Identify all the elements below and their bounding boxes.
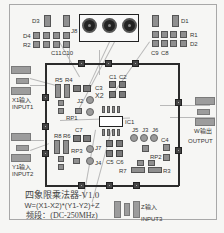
label-output: OUTPUT xyxy=(188,138,213,144)
d4-pad xyxy=(33,32,40,39)
label-d2: D2 xyxy=(190,41,198,47)
label-j2: J2 xyxy=(77,98,83,104)
j3-testpoint[interactable] xyxy=(140,134,148,142)
via xyxy=(175,147,182,154)
via xyxy=(78,182,85,189)
board-frequency: 频段：(DC-250MHz) xyxy=(0,211,127,220)
rp1-pad xyxy=(58,100,64,106)
d2-pad xyxy=(170,40,177,47)
label-j3: J3 xyxy=(142,127,148,133)
via xyxy=(133,182,140,189)
label-c10: C10 xyxy=(62,50,73,56)
label-c11: C11 xyxy=(51,50,62,56)
c1-pad xyxy=(109,91,116,98)
r2-pad xyxy=(33,41,40,48)
rp2-pad xyxy=(148,160,155,166)
ic1-pin xyxy=(117,106,120,113)
rp1-pad xyxy=(75,108,82,114)
jack-3[interactable] xyxy=(122,18,137,33)
r1-pad xyxy=(180,31,187,38)
ic1-pin xyxy=(107,106,110,113)
c9-pad xyxy=(152,40,159,47)
r7-pad xyxy=(131,167,145,173)
label-input1: INPUT1 xyxy=(12,104,33,110)
wire xyxy=(160,105,210,106)
trace xyxy=(45,63,179,65)
board-title: 四象限乘法器-V1.0 xyxy=(0,190,127,200)
label-c5: C5 xyxy=(106,159,114,165)
jack-2[interactable] xyxy=(102,18,117,33)
label-r3: R3 xyxy=(163,168,171,174)
label-c8: C8 xyxy=(161,50,169,56)
via xyxy=(132,60,139,67)
ic1-pin xyxy=(117,129,120,136)
label-c1: C1 xyxy=(109,74,117,80)
c2-pad xyxy=(119,81,126,88)
input3-pad[interactable] xyxy=(133,201,140,218)
c3-pad xyxy=(83,85,91,92)
label-c6: C6 xyxy=(116,159,124,165)
r6-pad xyxy=(63,140,69,154)
c2-pad xyxy=(119,91,126,98)
label-c9: C9 xyxy=(151,50,159,56)
j5-testpoint[interactable] xyxy=(130,134,138,142)
c11-pad xyxy=(53,41,60,48)
label-input3: INPUT3 xyxy=(141,216,162,222)
input1-pad[interactable] xyxy=(11,66,31,74)
j7-testpoint[interactable] xyxy=(86,145,94,153)
label-c2: C2 xyxy=(119,74,127,80)
rp3-pad xyxy=(58,164,64,170)
c3-pad xyxy=(73,85,81,92)
label-d1: D1 xyxy=(181,18,189,24)
c5-pad xyxy=(106,140,113,147)
output-pad[interactable] xyxy=(197,109,210,115)
jack-1[interactable] xyxy=(82,18,97,33)
r5-pad xyxy=(55,84,61,98)
via xyxy=(42,123,49,130)
label-r4: R4 xyxy=(65,77,73,83)
label-r1: R1 xyxy=(190,32,198,38)
label-r6: R6 xyxy=(63,133,71,139)
c6-pad xyxy=(116,150,123,157)
c4-pad xyxy=(163,144,170,151)
label-ic1: IC1 xyxy=(125,119,134,125)
label-input1-cn: X1输入 xyxy=(12,97,31,103)
d3-pad xyxy=(44,15,51,27)
input1-pad[interactable] xyxy=(11,87,31,95)
label-r5: R5 xyxy=(55,77,63,83)
label-j7: J7 xyxy=(95,145,101,151)
j1-testpoint[interactable] xyxy=(86,108,94,116)
label-j8: J8 xyxy=(71,28,77,34)
input1-pad[interactable] xyxy=(16,78,29,84)
input2-pad[interactable] xyxy=(11,154,31,162)
via xyxy=(175,99,182,106)
r1-pad xyxy=(170,31,177,38)
label-input2: INPUT2 xyxy=(12,171,33,177)
label-r8: R8 xyxy=(54,133,62,139)
d1-pad-2 xyxy=(172,15,179,27)
j6-testpoint[interactable] xyxy=(150,134,158,142)
label-r2: R2 xyxy=(23,42,31,48)
j4-testpoint[interactable] xyxy=(86,157,94,165)
label-r7: R7 xyxy=(119,168,127,174)
input2-pad[interactable] xyxy=(11,133,31,141)
label-c7: C7 xyxy=(75,127,83,133)
rp2-pad xyxy=(137,160,144,166)
r2-pad xyxy=(43,41,50,48)
c4-pad xyxy=(163,154,170,161)
c8-pad xyxy=(161,40,168,47)
label-input2-cn: Y1输入 xyxy=(12,164,31,170)
label-d4: D4 xyxy=(23,33,31,39)
input2-pad[interactable] xyxy=(16,145,29,151)
r3-pad xyxy=(148,167,162,173)
label-output-cn: W输出 xyxy=(194,128,212,134)
ic1-pin xyxy=(112,129,115,136)
c1-pad xyxy=(109,81,116,88)
r4-pad xyxy=(64,84,70,98)
trace xyxy=(178,63,180,186)
output-pad[interactable] xyxy=(195,97,215,105)
pcb-board: J8 D3 D4 R2 C11 C10 D1 R1 D2 C9 C8 X1输入 … xyxy=(0,0,224,233)
output-pad[interactable] xyxy=(195,118,215,126)
d4-pad xyxy=(43,32,50,39)
j2-testpoint[interactable] xyxy=(86,96,94,104)
